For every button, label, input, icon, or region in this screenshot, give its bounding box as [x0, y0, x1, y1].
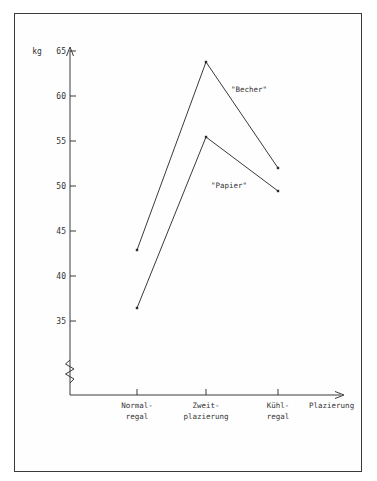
data-point-becher-2	[277, 167, 279, 169]
series-annotation-papier: "Papier"	[211, 181, 247, 190]
series-papier	[136, 136, 279, 309]
x-label-kuehlregal-line2: regal	[267, 412, 290, 421]
y-tick-label-50: 50	[56, 182, 66, 191]
series-annotation-becher: "Becher"	[231, 85, 267, 94]
x-label-kuehlregal-line1: Kühl-	[267, 401, 290, 410]
x-label-normalregal-line1: Normal-	[121, 401, 153, 410]
x-label-zweitplazierung-line2: plazierung	[183, 412, 228, 421]
y-tick-label-40: 40	[56, 272, 66, 281]
data-point-papier-0	[136, 307, 138, 309]
x-label-normalregal-line2: regal	[126, 412, 149, 421]
y-axis-unit-label: kg	[32, 47, 42, 56]
y-tick-label-60: 60	[56, 92, 66, 101]
x-label-zweitplazierung-line1: Zweit-	[192, 401, 219, 410]
y-tick-labels: 65 60 55 50 45 40 35	[56, 47, 66, 326]
data-point-becher-0	[136, 249, 138, 251]
line-chart: 65 60 55 50 45 40 35 kg Normal- regal Zw…	[0, 0, 377, 481]
y-tick-label-65: 65	[56, 47, 66, 56]
y-tick-label-45: 45	[56, 227, 66, 236]
y-tick-label-35: 35	[56, 317, 66, 326]
x-axis	[70, 392, 344, 399]
x-axis-title: Plazierung	[309, 401, 354, 410]
x-tick-marks	[137, 389, 278, 395]
y-tick-label-55: 55	[56, 137, 66, 146]
data-point-becher-1	[205, 61, 207, 63]
data-point-papier-2	[277, 190, 279, 192]
data-point-papier-1	[205, 136, 207, 138]
y-axis	[67, 47, 74, 395]
y-tick-marks	[70, 51, 76, 321]
x-category-labels: Normal- regal Zweit- plazierung Kühl- re…	[121, 401, 289, 421]
chart-figure: 65 60 55 50 45 40 35 kg Normal- regal Zw…	[0, 0, 377, 481]
